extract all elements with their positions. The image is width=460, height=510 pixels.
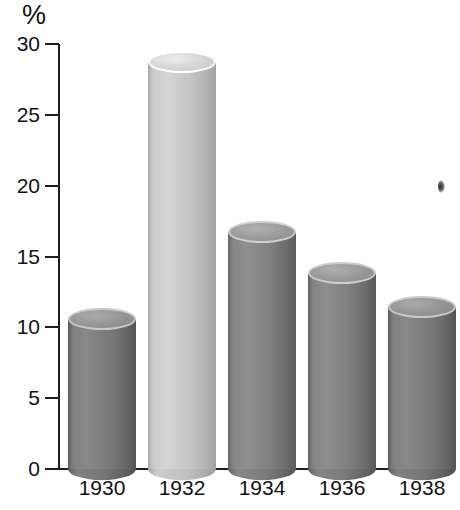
bar-body <box>388 307 456 469</box>
scan-artifact <box>438 180 445 193</box>
bar-body <box>308 273 376 469</box>
bar-cylinder <box>148 51 216 480</box>
bar-top-ellipse <box>148 51 216 73</box>
x-axis-label: 1932 <box>142 477 222 498</box>
bar-top-ellipse <box>228 221 296 243</box>
bar-cylinder <box>228 221 296 480</box>
bar-cylinder <box>68 308 136 481</box>
bar-cylinder <box>308 262 376 480</box>
bar-top-ellipse <box>68 308 136 330</box>
bar-body <box>68 319 136 470</box>
bar-cylinder <box>388 296 456 480</box>
bar-body <box>148 62 216 469</box>
x-axis-label: 1936 <box>302 477 382 498</box>
x-axis-label: 1934 <box>222 477 302 498</box>
x-axis-label: 1938 <box>382 477 460 498</box>
x-axis-label: 1930 <box>62 477 142 498</box>
bar-body <box>228 232 296 469</box>
